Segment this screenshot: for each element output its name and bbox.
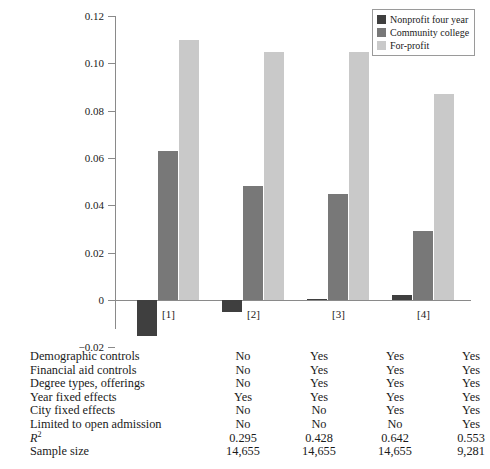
- bar: [158, 151, 178, 300]
- legend-item: Community college: [377, 26, 469, 39]
- legend-label: Community college: [390, 26, 469, 39]
- y-tick-mark: [108, 253, 115, 254]
- table-cell: No: [205, 350, 281, 364]
- y-tick-label: 0.06: [85, 152, 104, 164]
- table-cell: 0.295: [205, 432, 281, 446]
- y-tick-mark: [108, 158, 115, 159]
- table-cell: No: [205, 404, 281, 418]
- table-row-label: Limited to open admission: [0, 418, 205, 432]
- table-cell: Yes: [357, 377, 433, 391]
- bar: [349, 52, 369, 301]
- table-cell: 0.428: [281, 432, 357, 446]
- bar: [179, 40, 199, 300]
- table-row: Financial aid controlsNoYesYesYes: [0, 364, 490, 378]
- table-cell: Yes: [357, 350, 433, 364]
- x-axis-group-label: [2]: [247, 308, 260, 320]
- table-cell: No: [357, 418, 433, 432]
- table-cell: Yes: [205, 391, 281, 405]
- bar: [307, 299, 327, 300]
- table-cell: Yes: [281, 364, 357, 378]
- y-tick-label: 0.02: [85, 247, 104, 259]
- x-axis-group-label: [1]: [162, 308, 175, 320]
- table-row-label: City fixed effects: [0, 404, 205, 418]
- table-cell: Yes: [433, 404, 490, 418]
- figure-caption: [0, 462, 481, 469]
- y-tick: 0.10: [108, 63, 115, 64]
- bar: [137, 300, 157, 336]
- y-tick-mark: [108, 300, 115, 301]
- table-cell: 0.553: [433, 432, 490, 446]
- spec-table: Demographic controlsNoYesYesYesFinancial…: [0, 350, 490, 459]
- table-cell: No: [281, 404, 357, 418]
- legend-item: For-profit: [377, 39, 469, 52]
- bar-chart: 0.120.100.080.060.040.020−0.02 [1][2][3]…: [0, 0, 481, 345]
- table-row: Degree types, offeringsNoYesYesYes: [0, 377, 490, 391]
- table-row-label: Financial aid controls: [0, 364, 205, 378]
- specification-table: Demographic controlsNoYesYesYesFinancial…: [0, 350, 481, 459]
- legend-swatch-icon: [377, 41, 386, 50]
- table-cell: No: [205, 364, 281, 378]
- bar: [392, 295, 412, 300]
- chart-legend: Nonprofit four yearCommunity collegeFor-…: [372, 9, 475, 56]
- table-row: Year fixed effectsYesYesYesYes: [0, 391, 490, 405]
- y-tick: 0.08: [108, 111, 115, 112]
- y-tick-mark: [108, 111, 115, 112]
- y-tick-mark: [108, 16, 115, 17]
- legend-item: Nonprofit four year: [377, 13, 469, 26]
- table-row: City fixed effectsNoNoYesYes: [0, 404, 490, 418]
- bar: [222, 300, 242, 312]
- y-tick-mark: [108, 63, 115, 64]
- table-row-label: Degree types, offerings: [0, 377, 205, 391]
- legend-swatch-icon: [377, 15, 386, 24]
- table-cell: Yes: [357, 391, 433, 405]
- table-cell: 14,655: [357, 445, 433, 459]
- table-cell: Yes: [433, 391, 490, 405]
- spec-table-body: Demographic controlsNoYesYesYesFinancial…: [0, 350, 490, 459]
- table-row: Limited to open admissionNoNoNoYes: [0, 418, 490, 432]
- table-row: R20.2950.4280.6420.553: [0, 432, 490, 446]
- table-row-label: Sample size: [0, 445, 205, 459]
- y-tick-label: 0.12: [85, 10, 104, 22]
- table-row-label: Demographic controls: [0, 350, 205, 364]
- table-cell: Yes: [281, 350, 357, 364]
- y-tick-label: 0: [99, 294, 105, 306]
- y-tick-mark: [108, 205, 115, 206]
- table-cell: Yes: [281, 377, 357, 391]
- table-cell: 14,655: [205, 445, 281, 459]
- bar: [413, 231, 433, 300]
- superscript: 2: [38, 429, 42, 438]
- table-cell: Yes: [357, 364, 433, 378]
- bar: [264, 52, 284, 301]
- y-tick-label: 0.04: [85, 199, 104, 211]
- legend-label: Nonprofit four year: [390, 13, 468, 26]
- table-cell: No: [205, 418, 281, 432]
- bar: [434, 94, 454, 300]
- x-axis-group-label: [4]: [417, 308, 430, 320]
- table-cell: Yes: [433, 350, 490, 364]
- bar: [328, 194, 348, 301]
- table-cell: 14,655: [281, 445, 357, 459]
- zero-baseline: [115, 300, 471, 301]
- table-cell: No: [281, 418, 357, 432]
- y-tick-label: 0.10: [85, 57, 104, 69]
- y-tick: 0.12: [108, 16, 115, 17]
- y-axis-line: [115, 16, 116, 329]
- y-tick: 0.04: [108, 205, 115, 206]
- table-row-label: Year fixed effects: [0, 391, 205, 405]
- legend-label: For-profit: [390, 39, 429, 52]
- table-cell: No: [205, 377, 281, 391]
- y-tick: 0.06: [108, 158, 115, 159]
- table-cell: Yes: [433, 377, 490, 391]
- y-tick-label: 0.08: [85, 105, 104, 117]
- table-row-label: R2: [0, 432, 205, 446]
- plot-area: 0.120.100.080.060.040.020−0.02 [1][2][3]…: [115, 16, 471, 342]
- table-cell: 9,281: [433, 445, 490, 459]
- bar: [243, 186, 263, 300]
- table-row: Sample size14,65514,65514,6559,281: [0, 445, 490, 459]
- table-cell: Yes: [433, 364, 490, 378]
- y-tick: 0: [108, 300, 115, 301]
- table-cell: Yes: [433, 418, 490, 432]
- legend-swatch-icon: [377, 28, 386, 37]
- x-axis-group-label: [3]: [332, 308, 345, 320]
- table-row: Demographic controlsNoYesYesYes: [0, 350, 490, 364]
